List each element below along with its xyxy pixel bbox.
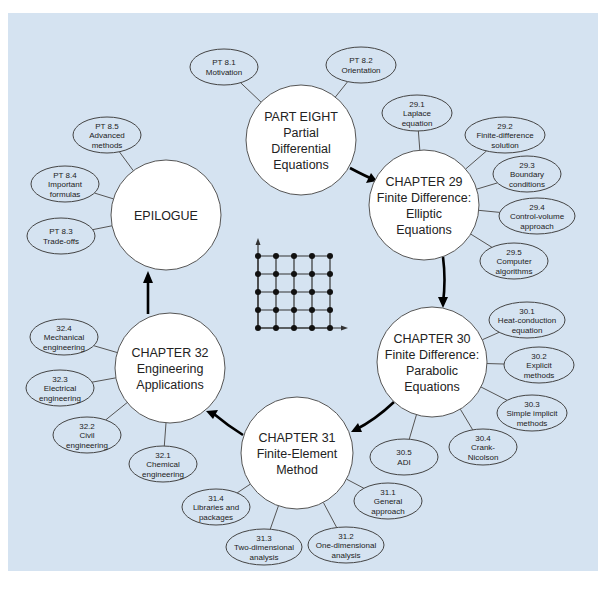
section-label: Advanced: [89, 131, 125, 140]
section-label: 29.5: [506, 248, 522, 257]
chapter-label: Finite Difference:: [385, 348, 479, 362]
chapter-node-part8[interactable]: PART EIGHTPartialDifferentialEquations: [246, 85, 356, 195]
section-label: 32.4: [56, 324, 72, 333]
grid-node-dot: [273, 289, 279, 295]
chapter-circle: [369, 150, 479, 260]
chapter-label: Finite-Element: [257, 447, 338, 461]
section-label: Explicit: [526, 361, 552, 370]
section-node[interactable]: 32.3Electricalengineering: [26, 370, 94, 406]
grid-node-dot: [327, 253, 333, 259]
section-label: Civil: [79, 431, 94, 440]
section-node[interactable]: 29.3Boundaryconditions: [493, 156, 561, 192]
section-label: engineering: [142, 470, 184, 479]
section-node[interactable]: PT 8.5Advancedmethods: [73, 117, 141, 153]
section-label: engineering: [43, 343, 85, 352]
section-node[interactable]: 29.2Finite-differencesolution: [465, 117, 545, 153]
chapter-label: Elliptic: [406, 207, 442, 221]
section-node[interactable]: 32.1Chemicalengineering: [129, 446, 197, 482]
grid-node-dot: [291, 289, 297, 295]
section-label: Laplace: [403, 109, 432, 118]
grid-node-dot: [255, 325, 261, 331]
section-label: 29.1: [409, 100, 425, 109]
pde-overview-diagram: PT 8.1MotivationPT 8.2Orientation29.1Lap…: [0, 0, 606, 592]
grid-node-dot: [327, 271, 333, 277]
chapter-label: EPILOGUE: [134, 209, 198, 223]
section-node[interactable]: 30.4Crank-Nicolson: [449, 429, 517, 465]
section-label: Orientation: [341, 66, 380, 75]
chapter-label: Method: [276, 463, 318, 477]
section-label: 30.4: [475, 434, 491, 443]
chapter-node-ch31[interactable]: CHAPTER 31Finite-ElementMethod: [241, 397, 353, 509]
section-label: algorithms: [496, 267, 533, 276]
section-node[interactable]: 29.5Computeralgorithms: [480, 243, 548, 279]
chapter-label: Partial: [283, 126, 318, 140]
section-label: 32.2: [79, 422, 95, 431]
section-label: Control-volume: [510, 212, 565, 221]
section-label: PT 8.4: [53, 171, 77, 180]
section-node[interactable]: 31.3Two-dimensionalanalysis: [226, 529, 302, 565]
section-label: 29.4: [529, 203, 545, 212]
section-node[interactable]: 29.1Laplaceequation: [382, 95, 452, 131]
section-label: approach: [371, 507, 404, 516]
section-label: 30.5: [396, 448, 412, 457]
flow-arrow-ch29-to-ch30: [443, 257, 445, 303]
section-label: 32.3: [52, 375, 68, 384]
section-label: Chemical: [146, 460, 180, 469]
section-label: One-dimensional: [316, 541, 377, 550]
section-node[interactable]: 30.2Explicitmethods: [504, 347, 574, 383]
grid-node-dot: [255, 289, 261, 295]
section-label: Boundary: [510, 170, 544, 179]
section-label: Heat-conduction: [498, 316, 556, 325]
section-label: methods: [517, 419, 548, 428]
grid-node-dot: [309, 271, 315, 277]
section-node[interactable]: PT 8.1Motivation: [190, 49, 258, 85]
section-label: 30.1: [519, 307, 535, 316]
section-node[interactable]: 31.1Generalapproach: [354, 483, 422, 519]
grid-node-dot: [273, 271, 279, 277]
chapter-label: Finite Difference:: [377, 191, 471, 205]
section-label: Mechanical: [44, 333, 85, 342]
section-label: Important: [48, 180, 83, 189]
section-label: 32.1: [155, 451, 171, 460]
section-label: Libraries and: [193, 503, 239, 512]
section-node[interactable]: 32.4Mechanicalengineering: [30, 319, 98, 355]
section-label: conditions: [509, 180, 545, 189]
section-node[interactable]: 31.4Libraries andpackages: [182, 489, 250, 525]
grid-node-dot: [327, 325, 333, 331]
section-label: PT 8.3: [49, 227, 73, 236]
grid-node-dot: [309, 253, 315, 259]
chapter-label: CHAPTER 30: [393, 332, 470, 346]
grid-node-dot: [291, 325, 297, 331]
chapter-node-ch29[interactable]: CHAPTER 29Finite Difference:EllipticEqua…: [369, 150, 479, 260]
chapter-node-epilogue[interactable]: EPILOGUE: [111, 160, 221, 270]
chapter-label: Equations: [273, 158, 329, 172]
section-node[interactable]: 29.4Control-volumeapproach: [499, 198, 575, 234]
grid-node-dot: [327, 289, 333, 295]
section-node[interactable]: 30.5ADI: [370, 439, 438, 475]
section-label: solution: [491, 141, 519, 150]
chapter-node-ch32[interactable]: CHAPTER 32EngineeringApplications: [115, 313, 225, 423]
section-node[interactable]: 32.2Civilengineering: [53, 417, 121, 453]
chapter-label: Engineering: [137, 362, 204, 376]
grid-node-dot: [309, 289, 315, 295]
section-label: 29.2: [497, 122, 513, 131]
section-label: PT 8.1: [212, 58, 236, 67]
section-label: equation: [512, 326, 543, 335]
section-node[interactable]: PT 8.4Importantformulas: [31, 166, 99, 202]
chapter-label: Parabolic: [406, 364, 458, 378]
section-label: 30.3: [524, 400, 540, 409]
chapter-label: Equations: [404, 380, 460, 394]
section-label: Finite-difference: [476, 131, 534, 140]
chapter-label: PART EIGHT: [264, 110, 338, 124]
section-node[interactable]: 30.3Simple implicitmethods: [497, 395, 567, 431]
section-node[interactable]: PT 8.3Trade-offs: [27, 218, 95, 254]
section-node[interactable]: PT 8.2Orientation: [326, 47, 396, 83]
section-node[interactable]: 30.1Heat-conductionequation: [489, 302, 565, 338]
grid-node-dot: [255, 271, 261, 277]
section-label: equation: [402, 119, 433, 128]
section-label: approach: [520, 222, 553, 231]
section-label: 31.4: [208, 494, 224, 503]
chapter-node-ch30[interactable]: CHAPTER 30Finite Difference:ParabolicEqu…: [377, 307, 487, 417]
section-node[interactable]: 31.2One-dimensionalanalysis: [308, 527, 384, 563]
section-label: Nicolson: [468, 453, 499, 462]
